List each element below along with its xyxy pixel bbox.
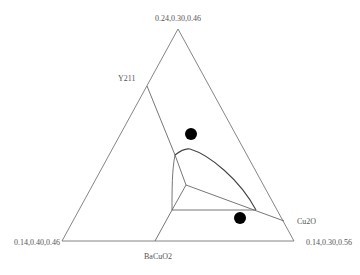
phase-label-bacuo2: BaCuO2: [144, 252, 172, 261]
y211-tie-line: [147, 86, 175, 155]
ternary-diagram: 0.24,0.30,0.46 0.14,0.40,0.46 0.14,0.30,…: [0, 0, 360, 275]
phase-boundary-curve: [175, 149, 256, 210]
vertex-label-right: 0.14,0.30,0.56: [306, 238, 352, 247]
ternary-triangle: [62, 29, 294, 241]
data-point-dot: [185, 128, 197, 140]
phase-label-y211: Y211: [118, 74, 135, 83]
phase-label-cu2o: Cu2O: [297, 217, 316, 226]
bacuo2-tie-line: [155, 210, 172, 241]
inner-line-a-d: [175, 155, 186, 185]
vertex-label-left: 0.14,0.40,0.46: [14, 238, 60, 247]
vertex-label-top: 0.24,0.30,0.46: [155, 14, 201, 23]
inner-line-d-c: [172, 185, 186, 210]
data-point-dot: [234, 212, 246, 224]
inner-left-boundary: [172, 155, 175, 210]
